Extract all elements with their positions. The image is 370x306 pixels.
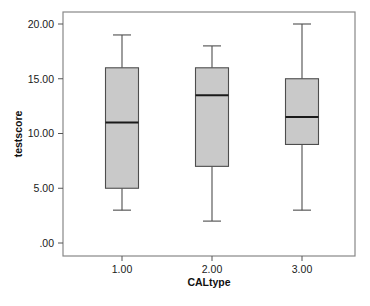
box-body <box>286 79 319 145</box>
box-body <box>196 68 229 167</box>
y-axis-tick-label: 15.00 <box>28 73 54 85</box>
chart-background <box>0 0 370 306</box>
x-axis-tick-label: 1.00 <box>112 263 133 275</box>
box-body <box>106 68 139 188</box>
y-axis-title: testscore <box>12 111 24 158</box>
y-axis-tick-label: 5.00 <box>34 182 55 194</box>
x-axis-tick-label: 2.00 <box>202 263 223 275</box>
chart-canvas: 20.0015.0010.005.00.00 1.002.003.00 test… <box>0 0 370 306</box>
y-axis-tick-label: .00 <box>39 237 54 249</box>
x-axis-title: CALtype <box>187 276 230 288</box>
boxplot-chart: 20.0015.0010.005.00.00 1.002.003.00 test… <box>0 0 370 306</box>
x-axis-tick-label: 3.00 <box>292 263 313 275</box>
y-axis-tick-label: 10.00 <box>28 127 54 139</box>
y-axis-tick-label: 20.00 <box>28 18 54 30</box>
